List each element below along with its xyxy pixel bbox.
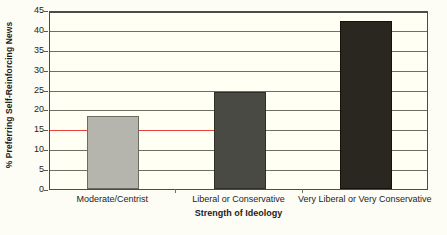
y-tick-label: 30 — [20, 66, 44, 75]
y-tick-mark — [44, 31, 48, 32]
y-tick-mark — [44, 150, 48, 151]
y-tick-mark — [44, 91, 48, 92]
x-axis-ticks: Moderate/CentristLiberal or Conservative… — [49, 193, 428, 209]
y-tick-mark — [44, 190, 48, 191]
y-tick-label: 10 — [20, 145, 44, 154]
bar — [340, 21, 392, 189]
y-tick-mark — [44, 71, 48, 72]
x-axis-title: Strength of Ideology — [49, 208, 428, 218]
plot-area — [49, 11, 428, 190]
y-tick-label: 35 — [20, 46, 44, 55]
y-tick-mark — [44, 110, 48, 111]
bar — [214, 92, 266, 189]
y-tick-mark — [44, 11, 48, 12]
y-tick-label: 25 — [20, 86, 44, 95]
y-tick-mark — [44, 170, 48, 171]
x-tick-mark — [175, 189, 176, 193]
y-tick-label: 40 — [20, 26, 44, 35]
y-tick-label: 20 — [20, 105, 44, 114]
gridline — [50, 11, 427, 13]
y-tick-label: 45 — [20, 6, 44, 15]
y-tick-mark — [44, 130, 48, 131]
y-tick-label: 5 — [20, 165, 44, 174]
bar — [87, 116, 139, 189]
x-tick-label: Very Liberal or Very Conservative — [270, 193, 447, 205]
y-tick-mark — [44, 51, 48, 52]
bar-chart: % Preferring Self-Reinforcing News 05101… — [0, 0, 447, 235]
y-tick-label: 15 — [20, 125, 44, 134]
y-axis-title: % Preferring Self-Reinforcing News — [2, 0, 16, 195]
x-tick-mark — [302, 189, 303, 193]
